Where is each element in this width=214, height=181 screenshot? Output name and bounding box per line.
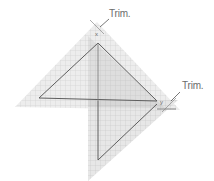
trim-label-right: Trim.	[182, 80, 203, 91]
vertex-label-x: x	[95, 31, 98, 37]
trim-leader-right	[171, 92, 180, 101]
trim-leader-top	[100, 19, 109, 27]
vertex-label-y: y	[160, 99, 163, 105]
lower-ruler-triangle	[88, 100, 178, 181]
trim-label-top: Trim.	[109, 8, 130, 19]
